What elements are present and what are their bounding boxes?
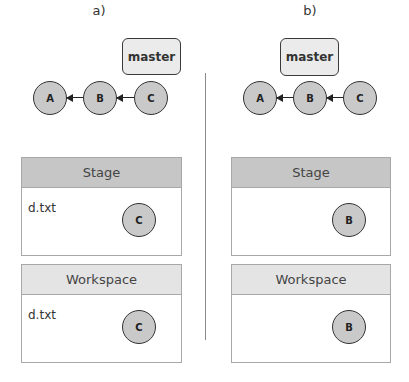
commit-node-a: A xyxy=(33,81,67,115)
commit-node-b: B xyxy=(293,81,327,115)
parent-arrow xyxy=(67,97,83,98)
commit-node-c: C xyxy=(343,81,377,115)
workspace-box: Workspace B xyxy=(231,264,391,363)
file-name: d.txt xyxy=(28,201,56,215)
panel-label: a) xyxy=(84,3,114,18)
workspace-header: Workspace xyxy=(22,265,181,295)
file-name: d.txt xyxy=(28,308,56,322)
stage-box: Stage B xyxy=(231,157,391,256)
branch-label-master: master xyxy=(280,38,339,76)
parent-arrow xyxy=(277,97,293,98)
commit-node-b: B xyxy=(83,81,117,115)
parent-arrow xyxy=(117,97,134,98)
commit-node-a: A xyxy=(243,81,277,115)
stage-commit-node: C xyxy=(122,203,156,237)
stage-header: Stage xyxy=(232,158,390,188)
parent-arrow xyxy=(327,97,343,98)
branch-label-master: master xyxy=(122,38,181,75)
panel-label: b) xyxy=(295,3,325,18)
stage-box: Stage d.txt C xyxy=(21,157,182,256)
panel-divider xyxy=(205,73,206,340)
workspace-commit-node: C xyxy=(122,310,156,344)
workspace-box: Workspace d.txt C xyxy=(21,264,182,363)
stage-commit-node: B xyxy=(332,203,366,237)
commit-node-c: C xyxy=(134,81,168,115)
stage-header: Stage xyxy=(22,158,181,188)
workspace-commit-node: B xyxy=(332,310,366,344)
workspace-header: Workspace xyxy=(232,265,390,295)
